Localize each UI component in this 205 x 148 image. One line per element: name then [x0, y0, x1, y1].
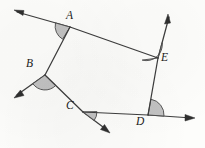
edge-E-A [70, 27, 158, 58]
arrowhead-D-icon [185, 115, 195, 122]
angle-sector-E [142, 43, 162, 61]
vertex-label-A: A [66, 10, 73, 22]
edge-B-C [45, 75, 83, 112]
vertex-label-E: E [161, 52, 168, 64]
arrowhead-group [14, 10, 195, 133]
ray-group [17, 12, 192, 130]
arrowhead-E-icon [165, 14, 171, 24]
arrowhead-A-icon [14, 10, 24, 16]
vertex-label-C: C [66, 100, 74, 112]
vertex-label-D: D [136, 116, 144, 128]
polygon-edge-group [45, 27, 158, 115]
geometry-figure: A B C D E [0, 0, 205, 148]
vertex-label-B: B [26, 58, 33, 70]
geometry-canvas [0, 0, 205, 148]
